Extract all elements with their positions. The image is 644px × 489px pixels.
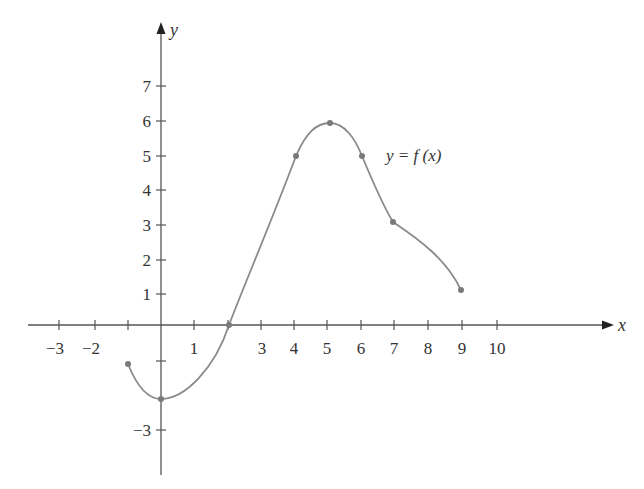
point-0-neg2 [158,396,164,402]
point-6-5 [359,153,365,159]
point-2-0 [226,322,232,328]
y-tick-label: 4 [143,181,152,200]
y-tick-label: 5 [143,147,152,166]
x-tick-label: 10 [489,339,506,358]
y-tick-label: −3 [133,421,151,440]
y-tick-label: 3 [143,216,152,235]
point-4-5 [293,153,299,159]
x-tick-label: 1 [190,339,199,358]
x-tick-label: −2 [82,339,100,358]
x-tick-label: 6 [357,339,366,358]
point-neg1-neg1 [125,361,131,367]
x-axis-label: x [617,315,626,335]
x-tick-label: −3 [46,339,64,358]
y-tick-label: 2 [143,251,152,270]
function-graph: x y −3 −2 1 3 4 5 6 7 8 9 10 [0,0,644,489]
function-label: y = f (x) [384,146,442,165]
y-tick-label: 6 [143,112,152,131]
y-axis-arrow-icon [157,22,166,34]
y-tick-label: 7 [143,77,152,96]
y-tick-labels: 7 6 5 4 3 2 1 −3 [133,77,152,440]
x-tick-label: 8 [424,339,433,358]
x-tick-label: 9 [458,339,467,358]
y-axis-label: y [168,20,178,40]
axes: x y [28,20,626,475]
x-tick-label: 4 [290,339,299,358]
point-9-1 [458,287,464,293]
x-tick-labels: −3 −2 1 3 4 5 6 7 8 9 10 [46,339,506,358]
x-tick-label: 5 [323,339,332,358]
x-tick-label: 3 [258,339,267,358]
x-axis-arrow-icon [602,321,614,330]
x-tick-label: 7 [390,339,399,358]
point-7-3 [390,219,396,225]
y-tick-label: 1 [143,285,152,304]
point-5-6 [327,120,333,126]
